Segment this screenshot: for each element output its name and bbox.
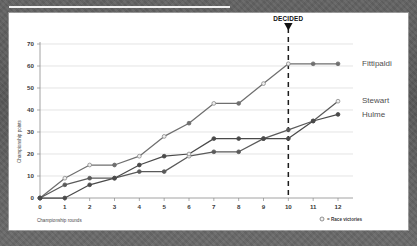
x-tick-2: 2 <box>88 203 92 210</box>
legend-race-victories: = Race victories <box>320 217 363 222</box>
data-point-hulme-round-3[interactable] <box>113 176 117 180</box>
x-axis-title: Championship rounds <box>37 218 82 223</box>
data-point-stewart-round-12[interactable] <box>336 99 340 103</box>
data-point-fittipaldi-round-10[interactable] <box>286 62 290 66</box>
x-tick-7: 7 <box>212 203 216 210</box>
y-tick-10: 10 <box>27 172 34 179</box>
data-point-fittipaldi-round-12[interactable] <box>336 62 340 66</box>
x-tick-9: 9 <box>262 203 266 210</box>
data-point-stewart-round-10[interactable] <box>286 128 290 132</box>
x-tick-11: 11 <box>310 203 317 210</box>
y-tick-20: 20 <box>27 150 34 157</box>
y-tick-70: 70 <box>27 40 34 47</box>
annotation-line-1: TITLE <box>279 13 298 14</box>
data-point-stewart-round-4[interactable] <box>137 170 141 174</box>
data-point-fittipaldi-round-4[interactable] <box>137 154 141 158</box>
series-label-fittipaldi: Fittipaldi <box>362 59 392 68</box>
header-rule <box>9 6 230 8</box>
data-point-hulme-round-5[interactable] <box>162 154 166 158</box>
data-point-fittipaldi-round-1[interactable] <box>63 176 67 180</box>
y-tick-40: 40 <box>27 106 34 113</box>
data-point-fittipaldi-round-11[interactable] <box>311 62 315 66</box>
data-point-fittipaldi-round-5[interactable] <box>162 135 166 139</box>
data-point-fittipaldi-round-2[interactable] <box>88 163 92 167</box>
data-point-fittipaldi-round-3[interactable] <box>113 163 117 167</box>
x-axis-tick-labels: 0123456789101112 <box>38 203 342 210</box>
x-tick-8: 8 <box>237 203 241 210</box>
x-tick-3: 3 <box>113 203 117 210</box>
series-labels: FittipaldiStewartHulme <box>362 59 392 119</box>
x-tick-5: 5 <box>162 203 166 210</box>
x-tick-12: 12 <box>335 203 342 210</box>
data-point-hulme-round-7[interactable] <box>212 137 216 141</box>
data-point-hulme-round-9[interactable] <box>262 137 266 141</box>
data-point-hulme-round-6[interactable] <box>187 152 191 156</box>
data-point-hulme-round-1[interactable] <box>63 196 67 200</box>
title-decided-annotation: TITLEDECIDED <box>273 13 303 198</box>
x-tick-1: 1 <box>63 203 67 210</box>
chart-panel: 010203040506070 0123456789101112 TITLEDE… <box>9 13 408 230</box>
data-point-stewart-round-5[interactable] <box>162 170 166 174</box>
x-tick-4: 4 <box>138 203 142 210</box>
x-tick-10: 10 <box>285 203 292 210</box>
down-triangle-icon <box>284 23 292 31</box>
x-tick-0: 0 <box>38 203 42 210</box>
y-axis-tick-labels: 010203040506070 <box>27 40 34 201</box>
y-tick-0: 0 <box>31 194 35 201</box>
series-line-fittipaldi <box>40 64 338 198</box>
data-point-hulme-round-0[interactable] <box>38 196 42 200</box>
data-point-hulme-round-12[interactable] <box>336 113 340 117</box>
x-tick-6: 6 <box>187 203 191 210</box>
series-lines <box>38 62 340 200</box>
data-point-hulme-round-8[interactable] <box>237 137 241 141</box>
y-tick-60: 60 <box>27 62 34 69</box>
data-point-fittipaldi-round-9[interactable] <box>262 82 266 86</box>
data-point-hulme-round-2[interactable] <box>88 183 92 187</box>
y-tick-30: 30 <box>27 128 34 135</box>
series-label-stewart: Stewart <box>362 96 390 105</box>
victory-marker-icon <box>320 217 324 221</box>
data-point-stewart-round-8[interactable] <box>237 150 241 154</box>
annotation-line-2: DECIDED <box>273 15 303 22</box>
data-point-fittipaldi-round-6[interactable] <box>187 121 191 125</box>
data-point-fittipaldi-round-8[interactable] <box>237 102 241 106</box>
data-point-hulme-round-10[interactable] <box>286 137 290 141</box>
data-point-hulme-round-4[interactable] <box>137 163 141 167</box>
line-chart[interactable]: 010203040506070 0123456789101112 TITLEDE… <box>9 13 408 230</box>
y-tick-50: 50 <box>27 84 34 91</box>
data-point-stewart-round-7[interactable] <box>212 150 216 154</box>
data-point-hulme-round-11[interactable] <box>311 119 315 123</box>
data-point-fittipaldi-round-7[interactable] <box>212 102 216 106</box>
data-point-stewart-round-1[interactable] <box>63 183 67 187</box>
data-point-stewart-round-2[interactable] <box>88 176 92 180</box>
series-line-stewart <box>40 101 338 198</box>
legend-text: = Race victories <box>327 217 363 222</box>
y-axis-title: Championship points <box>17 119 22 163</box>
series-label-hulme: Hulme <box>362 110 386 119</box>
